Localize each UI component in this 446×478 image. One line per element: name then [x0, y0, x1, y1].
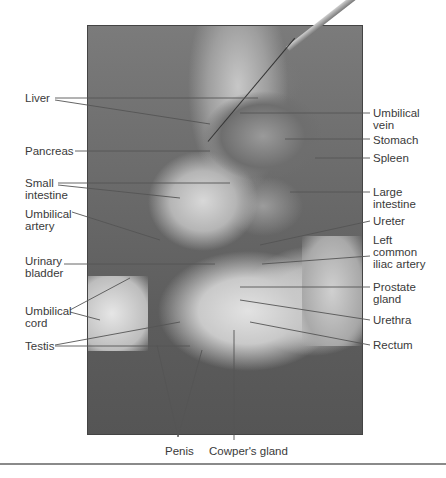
label-spleen: Spleen [373, 152, 409, 164]
label-large-intestine: Large intestine [373, 186, 416, 210]
label-liver: Liver [25, 92, 50, 104]
label-stomach: Stomach [373, 134, 418, 146]
probe-needle [286, 0, 365, 51]
hind-leg-left [88, 276, 148, 351]
label-small-intestine: Small intestine [25, 177, 68, 201]
label-urinary-bladder: Urinary bladder [25, 255, 63, 279]
label-umbilical-artery: Umbilical artery [25, 208, 72, 232]
hind-leg-right [302, 236, 362, 346]
label-umbilical-cord: Umbilical cord [25, 305, 72, 329]
label-rectum: Rectum [373, 339, 413, 351]
label-testis: Testis [25, 340, 54, 352]
dissection-photo [87, 25, 363, 435]
label-left-common-iliac-artery: Left common iliac artery [373, 234, 425, 270]
label-umbilical-vein: Umbilical vein [373, 107, 420, 131]
label-pancreas: Pancreas [25, 145, 74, 157]
label-prostate-gland: Prostate gland [373, 281, 416, 305]
bottom-rule [0, 463, 446, 465]
label-penis: Penis [165, 445, 194, 457]
label-urethra: Urethra [373, 314, 411, 326]
label-cowpers-gland: Cowper's gland [209, 445, 288, 457]
probe-wire [208, 38, 296, 142]
label-ureter: Ureter [373, 215, 405, 227]
